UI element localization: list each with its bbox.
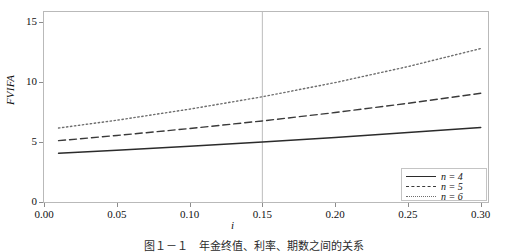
y-tick-mark	[39, 82, 43, 83]
series-line	[59, 128, 481, 154]
x-tick-mark	[335, 203, 336, 207]
y-tick-label: 15	[7, 16, 37, 27]
x-tick-mark	[481, 203, 482, 207]
y-tick-label: 0	[7, 196, 37, 207]
x-tick-label: 0.00	[22, 209, 66, 220]
legend-label: n = 6	[441, 192, 463, 201]
series-line	[59, 49, 481, 128]
x-tick-mark	[117, 203, 118, 207]
x-axis-label: i	[231, 219, 234, 231]
x-tick-label: 0.20	[313, 209, 357, 220]
legend-item: n = 6	[406, 192, 482, 201]
legend-label: n = 4	[441, 172, 463, 181]
series-line	[59, 93, 481, 140]
x-tick-mark	[44, 203, 45, 207]
y-tick-mark	[39, 22, 43, 23]
x-tick-label: 0.15	[240, 209, 284, 220]
figure-caption: 图１－１ 年金终值、利率、期数之间的关系	[0, 240, 507, 252]
legend-key-dashed-icon	[406, 186, 436, 187]
x-tick-mark	[190, 203, 191, 207]
x-tick-label: 0.05	[95, 209, 139, 220]
y-tick-mark	[39, 202, 43, 203]
legend-label: n = 5	[441, 182, 463, 191]
legend-key-solid-icon	[406, 176, 436, 177]
y-axis-label: FVIFA	[4, 58, 16, 122]
x-tick-mark	[262, 203, 263, 207]
y-tick-label: 5	[7, 136, 37, 147]
x-tick-mark	[408, 203, 409, 207]
x-tick-label: 0.10	[168, 209, 212, 220]
y-tick-mark	[39, 142, 43, 143]
x-tick-label: 0.25	[386, 209, 430, 220]
y-tick-label: 10	[7, 76, 37, 87]
legend: n = 4 n = 5 n = 6	[401, 168, 487, 201]
legend-key-dotted-icon	[406, 196, 436, 197]
legend-item: n = 4	[406, 172, 482, 181]
legend-item: n = 5	[406, 182, 482, 191]
x-tick-label: 0.30	[459, 209, 503, 220]
